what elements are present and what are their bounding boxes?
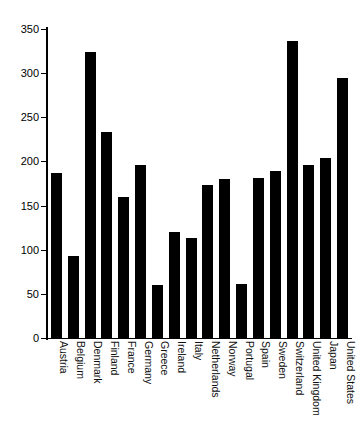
x-axis-tick-label: United States bbox=[344, 341, 357, 439]
y-axis-tick-label: 50 bbox=[5, 289, 39, 300]
y-axis-tick-label: 150 bbox=[5, 201, 39, 212]
bar[interactable] bbox=[337, 78, 348, 338]
x-axis-line bbox=[46, 338, 352, 339]
x-axis-tick-label: United Kingdom bbox=[310, 341, 324, 439]
bar[interactable] bbox=[236, 284, 247, 338]
bar[interactable] bbox=[186, 238, 197, 338]
x-axis-tick-label: Denmark bbox=[91, 341, 105, 439]
y-axis-tick bbox=[41, 338, 46, 339]
y-axis-tick-label: 100 bbox=[5, 245, 39, 256]
y-axis-tick bbox=[41, 294, 46, 295]
x-axis-tick-label: Portugal bbox=[243, 341, 257, 439]
x-axis-tick-label: Ireland bbox=[175, 341, 189, 439]
bar[interactable] bbox=[135, 165, 146, 338]
bar[interactable] bbox=[287, 41, 298, 338]
x-axis-tick-label: Austria bbox=[57, 341, 71, 439]
chart-title bbox=[0, 0, 357, 2]
y-axis-tick-label: 300 bbox=[5, 68, 39, 79]
y-axis-tick bbox=[41, 117, 46, 118]
bar[interactable] bbox=[320, 158, 331, 338]
y-axis-tick bbox=[41, 73, 46, 74]
bar[interactable] bbox=[101, 132, 112, 338]
bar[interactable] bbox=[253, 178, 264, 338]
x-axis-tick-label: Finland bbox=[108, 341, 122, 439]
x-axis-tick-label: Netherlands bbox=[209, 341, 223, 439]
bar[interactable] bbox=[169, 232, 180, 338]
bar[interactable] bbox=[152, 285, 163, 338]
x-axis-tick-labels: AustriaBelgiumDenmarkFinlandFranceGerman… bbox=[48, 341, 351, 440]
x-axis-tick-label: Sweden bbox=[276, 341, 290, 439]
y-axis-tick-label: 200 bbox=[5, 156, 39, 167]
y-axis-tick-label: 350 bbox=[5, 24, 39, 35]
x-axis-tick-label: Greece bbox=[158, 341, 172, 439]
x-axis-tick-label: France bbox=[125, 341, 139, 439]
y-axis-tick bbox=[41, 29, 46, 30]
y-axis-tick-label: 0 bbox=[5, 333, 39, 344]
bar-series bbox=[48, 29, 351, 338]
bar[interactable] bbox=[303, 165, 314, 338]
bar[interactable] bbox=[270, 171, 281, 338]
y-axis-tick bbox=[41, 161, 46, 162]
x-axis-tick-label: Spain bbox=[259, 341, 273, 439]
plot-area bbox=[48, 29, 351, 338]
bar[interactable] bbox=[219, 179, 230, 338]
bar[interactable] bbox=[202, 185, 213, 338]
x-axis-tick-label: Switzerland bbox=[293, 341, 307, 439]
x-axis-tick-label: Germany bbox=[142, 341, 156, 439]
y-axis-tick-label: 250 bbox=[5, 112, 39, 123]
bar[interactable] bbox=[51, 173, 62, 338]
bar[interactable] bbox=[118, 197, 129, 338]
bar-chart: 050100150200250300350 AustriaBelgiumDenm… bbox=[0, 0, 357, 440]
x-axis-tick-label: Italy bbox=[192, 341, 206, 439]
x-axis-tick-label: Japan bbox=[327, 341, 341, 439]
bar[interactable] bbox=[85, 52, 96, 338]
x-axis-tick-label: Norway bbox=[226, 341, 240, 439]
bar[interactable] bbox=[68, 256, 79, 338]
y-axis-tick bbox=[41, 206, 46, 207]
x-axis-tick-label: Belgium bbox=[74, 341, 88, 439]
y-axis-tick bbox=[41, 250, 46, 251]
